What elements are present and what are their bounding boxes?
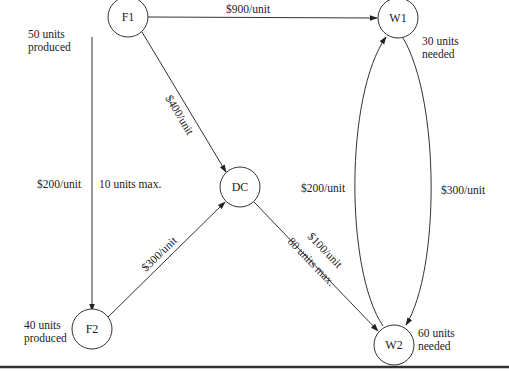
node-w2-label: W2 (385, 338, 402, 352)
edge-w1-w2 (403, 38, 431, 325)
edge-f2-dc-cost: $300/unit (139, 234, 180, 274)
edge-f1-w1 (148, 17, 377, 18)
node-f1: F1 (108, 0, 148, 37)
node-w2-note-line2: needed (418, 340, 451, 352)
node-f2-note-line1: 40 units (24, 319, 61, 331)
edge-w2-w1-cost: $200/unit (301, 182, 346, 194)
node-f1-note-line1: 50 units (28, 28, 65, 40)
node-w1-label: W1 (389, 11, 406, 25)
node-f1-note-line2: produced (28, 41, 71, 54)
node-w2-note-line1: 60 units (418, 327, 455, 339)
node-dc: DC (220, 167, 260, 207)
node-w1: W1 (378, 0, 418, 38)
node-f2: F2 (72, 309, 112, 349)
edge-f1-w1-cost: $900/unit (226, 3, 271, 15)
node-w1-note-line2: needed (422, 48, 455, 60)
edge-f2-dc (107, 202, 225, 318)
edge-w2-w1 (355, 37, 386, 326)
node-f2-note-line2: produced (24, 332, 67, 345)
node-dc-label: DC (232, 180, 249, 194)
edge-f1-f2-capacity: 10 units max. (99, 178, 161, 190)
distribution-network-diagram: $900/unit $400/unit $200/unit 10 units m… (0, 0, 509, 371)
node-w2: W2 (374, 325, 414, 365)
edge-w1-w2-cost: $300/unit (441, 184, 486, 196)
edge-f1-dc (142, 32, 226, 172)
node-f1-label: F1 (122, 10, 135, 24)
node-w1-note-line1: 30 units (422, 35, 459, 47)
node-f2-label: F2 (86, 322, 99, 336)
edge-f1-f2-cost: $200/unit (37, 178, 82, 190)
